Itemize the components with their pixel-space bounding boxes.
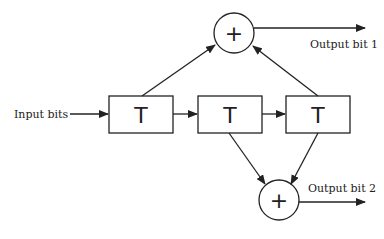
convolutional-encoder-diagram: Input bits T T T + Output bit 1 + Output…	[0, 0, 384, 239]
output-bit-2-label: Output bit 2	[308, 182, 376, 195]
register-3: T	[286, 96, 350, 133]
diagram-svg: Input bits T T T + Output bit 1 + Output…	[0, 0, 384, 239]
adder-2: +	[259, 180, 299, 220]
output-bit-1-label: Output bit 1	[310, 38, 378, 51]
plus-icon: +	[225, 21, 243, 46]
input-bits-label: Input bits	[14, 108, 68, 121]
register-2: T	[198, 96, 262, 133]
arrow-r1-adder1	[142, 45, 215, 96]
arrow-r3-adder1	[253, 46, 318, 96]
arrow-r3-adder2	[291, 133, 318, 184]
register-3-label: T	[310, 103, 325, 128]
plus-icon: +	[270, 188, 288, 213]
register-1: T	[109, 96, 173, 133]
arrow-r2-adder2	[229, 133, 265, 184]
register-1-label: T	[133, 103, 148, 128]
register-2-label: T	[222, 103, 237, 128]
adder-1: +	[214, 13, 254, 53]
